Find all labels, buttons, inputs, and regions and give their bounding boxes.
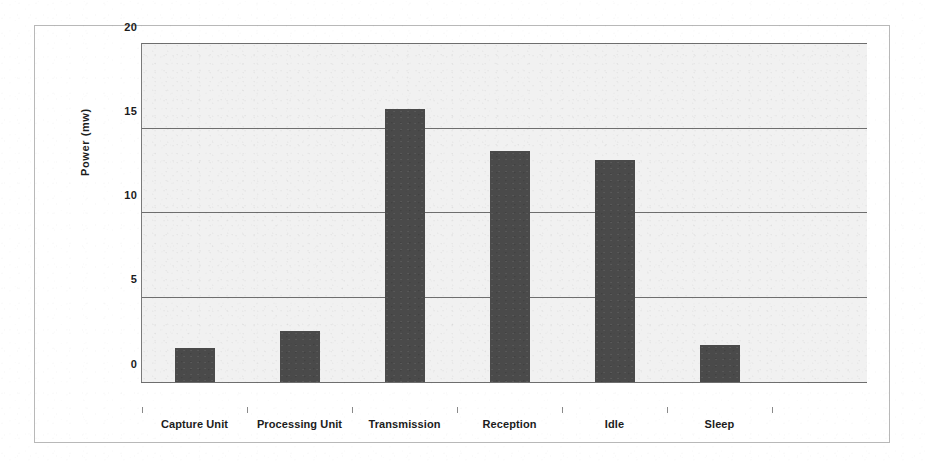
figure-frame: Power (mw) 20 15 10 5 0 [34,25,890,443]
bar-texture [700,345,740,382]
plot-area [142,43,867,382]
bar-texture [280,331,320,382]
gridline-20 [142,43,867,44]
bar-texture [385,109,425,382]
y-tick-label-10: 10 [97,189,137,201]
bar-reception [490,151,530,382]
bar-sleep [700,345,740,382]
x-tick-mark-1 [247,407,248,413]
x-tick-mark-2 [352,407,353,413]
bar-texture [175,348,215,382]
chart-page: Power (mw) 20 15 10 5 0 [0,0,927,466]
y-tick-label-0: 0 [97,358,137,370]
category-label-sleep: Sleep [667,418,772,430]
bar-texture [595,160,635,382]
x-axis-spine [141,382,867,383]
x-tick-mark-0 [142,407,143,413]
gridline-15 [142,128,867,129]
y-tick-label-15: 15 [97,105,137,117]
y-tick-label-20: 20 [97,21,137,33]
bar-transmission [385,109,425,382]
x-tick-mark-4 [562,407,563,413]
x-tick-mark-5 [667,407,668,413]
x-tick-mark-3 [457,407,458,413]
bar-texture [490,151,530,382]
bar-capture-unit [175,348,215,382]
category-label-capture-unit: Capture Unit [142,418,247,430]
y-tick-label-5: 5 [97,273,137,285]
category-label-idle: Idle [562,418,667,430]
bar-idle [595,160,635,382]
y-axis-title: Power (mw) [79,46,91,176]
category-label-reception: Reception [457,418,562,430]
x-tick-mark-6 [772,407,773,413]
category-label-processing-unit: Processing Unit [247,418,352,430]
category-label-transmission: Transmission [352,418,457,430]
bar-processing-unit [280,331,320,382]
